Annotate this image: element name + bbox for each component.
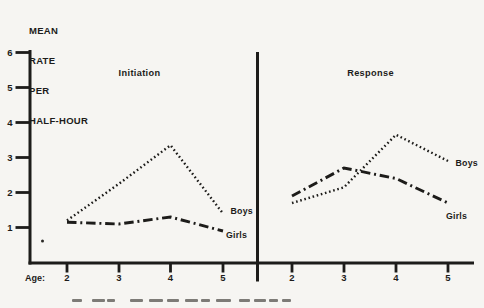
series-label-boys: Boys [231,206,253,216]
figure-mean-rate-per-half-hour: MEAN RATE PER HALF-HOUR 123456Age:Initia… [0,0,484,308]
x-tick-label: 4 [168,272,174,283]
series-line-response-girls [292,168,448,203]
x-tick-label: 2 [64,272,69,283]
x-tick-label: 2 [289,272,294,283]
x-axis-title: Age: [25,273,45,283]
y-tick-label: 4 [7,117,13,128]
x-tick-label: 5 [220,272,226,283]
y-tick-label: 5 [7,82,13,93]
y-tick-label: 6 [7,47,12,58]
y-tick-label: 1 [7,222,13,233]
x-tick-label: 4 [393,272,399,283]
chart-canvas: 123456Age:Initiation2345BoysGirlsRespons… [0,0,484,308]
series-line-response-boys [292,135,448,203]
series-label-girls: Girls [446,211,467,221]
series-line-initiation-girls [67,217,223,231]
x-tick-label: 3 [341,272,346,283]
x-tick-label: 5 [445,272,451,283]
x-tick-label: 3 [116,272,121,283]
panel-title-response: Response [347,68,394,78]
panel-title-initiation: Initiation [119,68,161,78]
series-label-girls: Girls [226,230,247,240]
y-tick-label: 2 [7,187,12,198]
series-line-initiation-boys [67,145,223,220]
y-tick-label: 3 [7,152,12,163]
stray-dot-artifact [41,240,44,243]
series-label-boys: Boys [456,158,478,168]
